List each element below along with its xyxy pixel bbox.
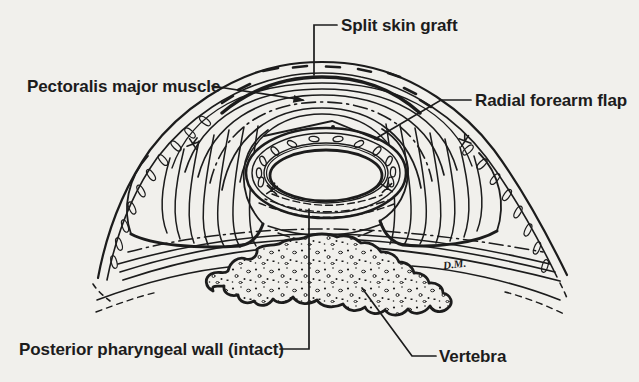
label-pectoralis-major-muscle: Pectoralis major muscle [27, 78, 220, 95]
vessel-tie-icon [458, 133, 471, 147]
flap-lumen [270, 150, 382, 201]
artist-signature: D.M. [442, 257, 466, 271]
label-posterior-pharyngeal-wall: Posterior pharyngeal wall (intact) [19, 341, 284, 358]
label-vertebra: Vertebra [439, 348, 506, 365]
label-radial-forearm-flap: Radial forearm flap [475, 92, 627, 109]
anatomical-drawing [0, 0, 639, 382]
illustration-canvas: Split skin graft Pectoralis major muscle… [0, 0, 639, 382]
label-split-skin-graft: Split skin graft [341, 17, 457, 34]
